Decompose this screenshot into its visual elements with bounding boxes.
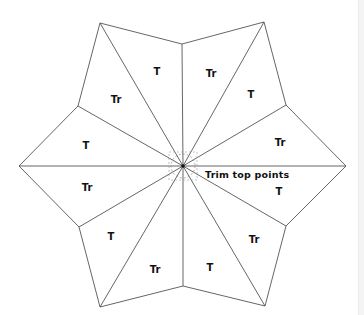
segment-label: Tr xyxy=(82,182,93,193)
outline-edge xyxy=(78,23,100,106)
outline-edge xyxy=(286,166,346,226)
outline-edge xyxy=(265,226,286,306)
segment-label: T xyxy=(276,186,283,197)
outline-edge xyxy=(183,286,265,306)
outline-edge xyxy=(100,286,183,307)
segment-label: T xyxy=(83,140,90,151)
outline-edge xyxy=(19,106,78,166)
segment-label: T xyxy=(248,89,255,100)
segment-label: Tr xyxy=(206,68,217,79)
segment-label: T xyxy=(154,66,161,77)
trim-top-points-note: Trim top points xyxy=(205,169,289,180)
inner-spoke xyxy=(78,106,183,166)
center-point xyxy=(181,164,185,168)
inner-spoke xyxy=(182,44,183,166)
segment-label: Tr xyxy=(111,94,122,105)
outline-edge xyxy=(19,166,79,227)
segment-label: Tr xyxy=(150,264,161,275)
segment-label: Tr xyxy=(249,234,260,245)
outline-edge xyxy=(100,23,182,44)
segment-label: T xyxy=(108,231,115,242)
outline-edge xyxy=(286,105,346,166)
outline-edge xyxy=(79,227,100,307)
outline-edge xyxy=(182,22,264,44)
outline-edge xyxy=(264,22,286,105)
segment-label: Tr xyxy=(275,137,286,148)
inner-spoke xyxy=(79,166,183,227)
inner-spoke xyxy=(183,105,286,166)
segment-label: T xyxy=(207,262,214,273)
